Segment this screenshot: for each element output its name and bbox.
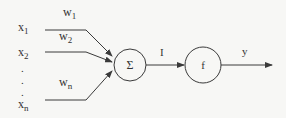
weight-label-w2: w2 bbox=[59, 29, 72, 45]
perceptron-diagram: x1 x2 . . . xn w1 w2 wn Σ I f y bbox=[0, 0, 286, 118]
input-label-x2: x2 bbox=[18, 45, 29, 61]
edge-x2 bbox=[45, 52, 112, 62]
ellipsis-dot-1: . bbox=[21, 62, 24, 74]
sum-symbol: Σ bbox=[127, 58, 134, 72]
intermediate-label: I bbox=[160, 46, 164, 58]
output-label: y bbox=[242, 45, 248, 57]
activation-symbol: f bbox=[201, 59, 205, 71]
weight-label-wn: wn bbox=[59, 75, 73, 91]
edge-xn bbox=[45, 71, 112, 100]
weight-label-w1: w1 bbox=[63, 5, 76, 21]
input-label-x1: x1 bbox=[18, 20, 29, 36]
ellipsis-dot-2: . bbox=[21, 74, 24, 86]
input-label-xn: xn bbox=[18, 97, 29, 113]
